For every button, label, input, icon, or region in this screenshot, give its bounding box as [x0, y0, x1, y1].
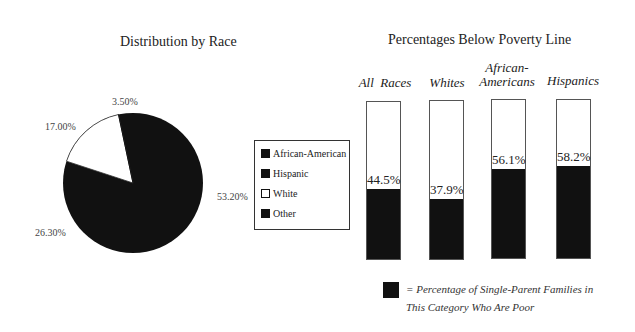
legend-item-other: Other	[261, 208, 296, 219]
category-line2: Americans	[472, 75, 542, 89]
bar-african-americans: 56.1%	[491, 99, 526, 259]
pie-label-white: 17.00%	[45, 121, 76, 132]
note-line2: This Category Who Are Poor	[406, 298, 593, 316]
bar-category-hispanics: Hispanics	[538, 60, 608, 88]
legend-label: White	[273, 188, 297, 199]
category-line1: African-	[472, 61, 542, 75]
bar-value-label: 58.2%	[557, 149, 590, 165]
legend-swatch-black	[261, 169, 270, 178]
legend-item-hispanic: Hispanic	[261, 168, 309, 179]
bar-fill	[430, 199, 463, 259]
legend-label: African-American	[273, 148, 346, 159]
bar-value-label: 56.1%	[492, 152, 525, 168]
bar-category-all-races: All Races	[350, 62, 420, 90]
legend-label: Hispanic	[273, 168, 309, 179]
note-line1: = Percentage of Single-Parent Families i…	[406, 280, 593, 298]
pie-chart	[60, 110, 206, 256]
bar-value-label: 44.5%	[367, 172, 400, 188]
bar-hispanics: 58.2%	[556, 99, 591, 259]
category-line2: All Races	[350, 76, 420, 90]
bar-value-label: 37.9%	[430, 182, 463, 198]
category-line1	[350, 62, 420, 76]
legend-item-african-american: African-American	[261, 148, 346, 159]
bar-fill	[492, 169, 525, 258]
legend-swatch-black	[261, 209, 270, 218]
bar-fill	[367, 189, 400, 259]
legend-swatch-white	[261, 189, 270, 198]
bar-chart-title: Percentages Below Poverty Line	[388, 32, 571, 48]
legend-label: Other	[273, 208, 296, 219]
category-line2: Hispanics	[538, 74, 608, 88]
pie-label-african-american: 53.20%	[217, 191, 248, 202]
pie-label-other: 3.50%	[112, 96, 138, 107]
bar-legend-note: = Percentage of Single-Parent Families i…	[406, 280, 593, 316]
legend-item-white: White	[261, 188, 297, 199]
pie-chart-title: Distribution by Race	[120, 34, 237, 50]
legend-swatch-black	[261, 149, 270, 158]
bar-legend-swatch	[383, 282, 399, 298]
bar-whites: 37.9%	[429, 100, 464, 260]
bar-category-african-americans: African- Americans	[472, 61, 542, 89]
pie-label-hispanic: 26.30%	[35, 227, 66, 238]
pie-legend: African-American Hispanic White Other	[254, 140, 350, 230]
category-line1	[538, 60, 608, 74]
bar-fill	[557, 166, 590, 258]
bar-all-races: 44.5%	[366, 101, 401, 260]
